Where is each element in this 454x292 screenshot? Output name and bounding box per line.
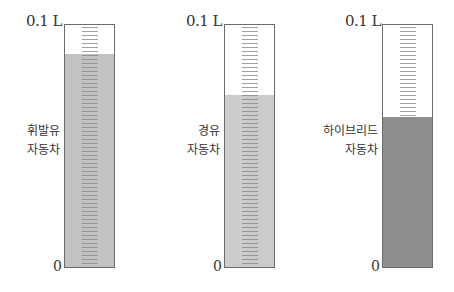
measuring-cylinder <box>224 24 275 268</box>
measuring-cylinder <box>64 24 115 268</box>
graduation-marks <box>242 27 258 265</box>
category-line1: 하이브리드 <box>308 122 378 141</box>
category-line2: 자동차 <box>308 141 378 160</box>
max-label: 0.1 L <box>345 12 381 30</box>
measuring-cylinder <box>382 24 433 268</box>
zero-label: 0 <box>53 258 62 274</box>
max-label: 0.1 L <box>186 12 222 30</box>
graduation-marks <box>82 27 98 265</box>
category-line2: 자동차 <box>174 141 220 160</box>
max-label: 0.1 L <box>26 12 62 30</box>
zero-label: 0 <box>371 258 380 274</box>
zero-label: 0 <box>213 258 222 274</box>
category-label-hybrid: 하이브리드 자동차 <box>308 122 378 160</box>
category-line1: 휘발유 <box>14 122 60 141</box>
category-label-diesel: 경유 자동차 <box>174 122 220 160</box>
category-line2: 자동차 <box>14 141 60 160</box>
graduation-marks <box>400 27 416 265</box>
category-label-gasoline: 휘발유 자동차 <box>14 122 60 160</box>
category-line1: 경유 <box>174 122 220 141</box>
